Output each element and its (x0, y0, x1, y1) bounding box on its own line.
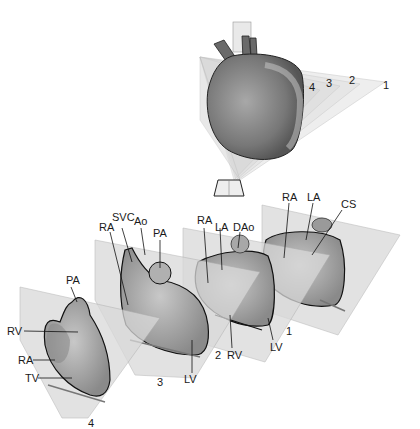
label-rv-plane2: RV (227, 350, 242, 361)
label-pa-plane3: PA (153, 228, 167, 239)
label-ra-plane3: RA (99, 222, 114, 233)
section-number-3: 3 (157, 377, 163, 388)
label-ra-plane2: RA (197, 215, 212, 226)
label-cs-plane1: CS (341, 199, 356, 210)
label-ao-plane3: Ao (134, 216, 147, 227)
overview-plane-number-1: 1 (383, 80, 389, 91)
overview-plane-number-3: 3 (326, 78, 332, 89)
section-number-2: 2 (215, 350, 221, 361)
label-la-plane1: LA (307, 192, 320, 203)
overview-heart-illustration (200, 22, 385, 196)
label-lv-plane2: LV (270, 342, 283, 353)
label-svc-plane3: SVC (112, 212, 135, 223)
section-number-4: 4 (88, 418, 94, 429)
label-la-plane2: LA (215, 222, 228, 233)
label-ra-plane4: RA (18, 355, 33, 366)
label-ra-plane1: RA (282, 192, 297, 203)
label-tv-plane4: TV (25, 373, 39, 384)
overview-plane-number-4: 4 (309, 82, 315, 93)
section-number-1: 1 (286, 326, 292, 337)
label-dao-plane2: DAo (233, 222, 254, 233)
label-lv-plane3: LV (184, 374, 197, 385)
label-pa-plane4: PA (66, 275, 80, 286)
label-rv-plane4: RV (7, 326, 22, 337)
overview-plane-number-2: 2 (349, 75, 355, 86)
